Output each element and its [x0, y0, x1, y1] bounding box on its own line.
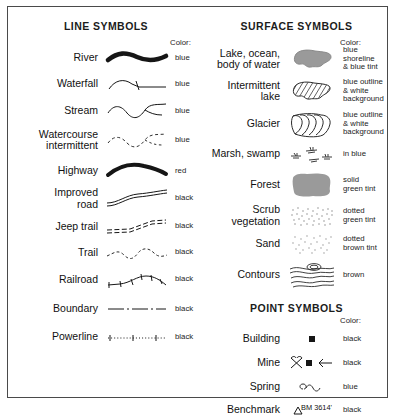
section-line-symbols: LINE SYMBOLS Color: River blue Waterfall… — [8, 7, 204, 346]
legend-row: Powerline black — [8, 328, 204, 346]
legend-row: Scrub vegetation — [204, 203, 389, 228]
legend-frame: LINE SYMBOLS Color: River blue Waterfall… — [7, 6, 388, 398]
legend-color: black — [338, 335, 389, 344]
legend-color: dotted brown tint — [338, 235, 389, 252]
legend-row: Marsh, swamp — [204, 143, 389, 165]
mine-crossed-picks-square-shaft-icon — [286, 355, 338, 371]
legend-row: Boundary black — [8, 300, 204, 318]
section-title-point-symbols: POINT SYMBOLS — [204, 302, 389, 314]
intermittent-lake-hatched-blob-icon — [286, 78, 338, 104]
legend-row: Glacier blue outline & white backgro — [204, 109, 389, 139]
boundary-dash-dot-line-icon — [104, 302, 170, 316]
sand-stipple-icon — [286, 233, 338, 255]
highway-thick-tapered-line-icon — [104, 162, 170, 180]
lake-solid-fill-blob-icon — [286, 47, 338, 71]
legend-row: Jeep trail black — [8, 216, 204, 237]
legend-row: Benchmark BM 3614' black — [204, 400, 389, 419]
legend-color: black — [170, 248, 204, 257]
jeep-trail-double-dashed-line-icon — [104, 218, 170, 236]
legend-label: River — [8, 52, 104, 64]
legend-row: Spring blue — [204, 378, 389, 396]
legend-color: black — [170, 194, 204, 203]
legend-label: Marsh, swamp — [204, 148, 286, 160]
legend-label: Forest — [204, 179, 286, 191]
legend-row: Railroad black — [8, 268, 204, 291]
marsh-swamp-grass-tufts-icon — [286, 144, 338, 164]
legend-label: Building — [204, 333, 286, 345]
legend-row: Building black — [204, 330, 389, 348]
building-filled-square-icon — [286, 332, 338, 346]
legend-label: Benchmark — [204, 404, 286, 416]
legend-label: Scrub vegetation — [204, 204, 286, 227]
trail-broken-dashed-line-icon — [104, 244, 170, 262]
legend-row: Trail black — [8, 242, 204, 263]
legend-color: blue — [170, 136, 204, 145]
legend-row: Intermittent lake — [204, 77, 389, 105]
waterfall-line-with-tick-icon — [104, 75, 170, 93]
legend-label: Sand — [204, 238, 286, 250]
legend-color: brown — [338, 271, 389, 280]
legend-label: Boundary — [8, 303, 104, 315]
legend-row: Sand dotted brown tint — [204, 231, 389, 256]
scrub-vegetation-stipple-icon — [286, 205, 338, 227]
legend-row: Forest solid green tint — [204, 171, 389, 199]
legend-row: River blue — [8, 48, 204, 68]
legend-label: Highway — [8, 165, 104, 177]
legend-row: Lake, ocean, body of water blue shorelin… — [204, 46, 389, 72]
legend-color: dotted green tint — [338, 207, 389, 224]
river-thick-wavy-line-icon — [104, 49, 170, 67]
legend-row: Watercourse intermittent blue — [8, 128, 204, 152]
legend-label: Improved road — [8, 187, 104, 210]
legend-label: Mine — [204, 357, 286, 369]
legend-row: Waterfall blue — [8, 74, 204, 94]
legend-color: blue — [170, 107, 204, 116]
legend-label: Contours — [204, 269, 286, 281]
powerline-dotted-line-with-ticks-icon — [104, 330, 170, 344]
legend-label: Powerline — [8, 331, 104, 343]
benchmark-triangle-icon: BM 3614' — [286, 402, 338, 418]
legend-color: black — [170, 305, 204, 314]
benchmark-annotation: BM 3614' — [301, 403, 332, 412]
legend-label: Watercourse intermittent — [8, 129, 104, 152]
stream-thin-wavy-line-icon — [104, 101, 170, 121]
section-title-line-symbols: LINE SYMBOLS — [8, 20, 204, 32]
legend-label: Railroad — [8, 274, 104, 286]
legend-color: red — [170, 167, 204, 176]
glacier-nested-curves-icon — [286, 110, 338, 138]
legend-row: Mine black — [204, 353, 389, 373]
railroad-line-with-crossties-icon — [104, 270, 170, 290]
legend-label: Trail — [8, 247, 104, 259]
legend-label: Glacier — [204, 118, 286, 130]
legend-color: black — [338, 406, 389, 415]
legend-color: blue — [170, 54, 204, 63]
legend-row: Stream blue — [8, 100, 204, 122]
legend-row: Contours brown — [204, 260, 389, 290]
color-column-header-point: Color: — [340, 316, 361, 325]
legend-label: Intermittent lake — [204, 80, 286, 103]
legend-color: blue — [170, 80, 204, 89]
legend-label: Spring — [204, 381, 286, 393]
legend-color: in blue — [338, 150, 389, 159]
legend-row: Improved road black — [8, 186, 204, 211]
legend-color: black — [170, 333, 204, 342]
legend-color: solid green tint — [338, 176, 389, 193]
improved-road-double-line-icon — [104, 188, 170, 210]
legend-label: Jeep trail — [8, 221, 104, 233]
legend-color: blue — [338, 383, 389, 392]
legend-color: black — [338, 359, 389, 368]
watercourse-intermittent-dashed-line-icon — [104, 130, 170, 150]
legend-label: Waterfall — [8, 78, 104, 90]
legend-color: blue shoreline & blue tint — [338, 46, 389, 72]
legend-row: Highway red — [8, 161, 204, 181]
legend-label: Stream — [8, 105, 104, 117]
legend-color: blue outline & white background — [338, 111, 389, 137]
color-column-header-surface: Color: — [340, 38, 361, 47]
contours-nested-wavy-lines-icon — [286, 261, 338, 289]
color-column-header-line: Color: — [170, 38, 191, 47]
legend-color: black — [170, 222, 204, 231]
legend-label: Lake, ocean, body of water — [204, 48, 286, 71]
section-surface-symbols: SURFACE SYMBOLS Color: Lake, ocean, body… — [204, 7, 389, 419]
legend-color: blue outline & white background — [338, 78, 389, 104]
spring-loop-with-wavy-tail-icon — [286, 380, 338, 394]
forest-solid-tint-blob-icon — [286, 172, 338, 198]
